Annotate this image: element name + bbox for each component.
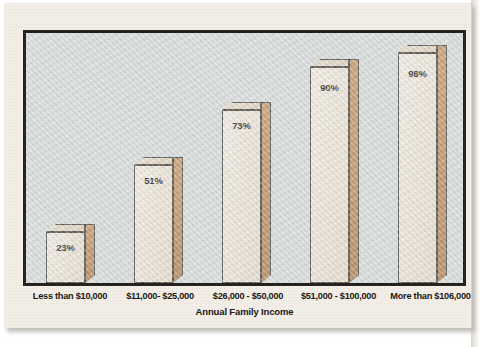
bar-1-front-face <box>46 232 85 283</box>
bar-5-value-label: 98% <box>398 68 437 79</box>
x-axis-title: Annual Family Income <box>23 306 466 317</box>
bar-3-side-face <box>261 102 271 283</box>
bar-2-value-label: 51% <box>134 175 173 186</box>
bar-4[interactable]: 90% <box>310 59 349 283</box>
bar-4-value-label: 90% <box>310 82 349 93</box>
bar-5-top-face <box>398 45 437 53</box>
bar-3-value-label: 73% <box>222 120 261 131</box>
x-axis-category-labels: Less than $10,000 $11,000- $25,000 $26,0… <box>23 291 466 307</box>
paper-sheet: 23% 51% 73% <box>4 3 472 328</box>
chart-plot-area: 23% 51% 73% <box>26 33 463 283</box>
chart-plot-frame: 23% 51% 73% <box>23 30 466 286</box>
bar-1-side-face <box>85 224 95 283</box>
bar-1-value-label: 23% <box>46 242 85 253</box>
bar-4-side-face <box>349 59 359 283</box>
bar-3-top-face <box>222 102 261 110</box>
scanned-page: 23% 51% 73% <box>0 0 487 347</box>
bar-2-side-face <box>173 157 183 283</box>
bar-2-top-face <box>134 157 173 165</box>
bar-4-front-face <box>310 67 349 283</box>
bar-5[interactable]: 98% <box>398 45 437 283</box>
bar-4-top-face <box>310 59 349 67</box>
bar-5-front-face <box>398 53 437 283</box>
bar-3-front-face <box>222 110 261 283</box>
bar-1-top-face <box>46 224 85 232</box>
bar-3[interactable]: 73% <box>222 102 261 283</box>
x-axis-label-5: More than $106,000 <box>373 291 487 301</box>
bar-5-side-face <box>437 45 447 283</box>
bar-2[interactable]: 51% <box>134 157 173 283</box>
bar-1[interactable]: 23% <box>46 224 85 283</box>
